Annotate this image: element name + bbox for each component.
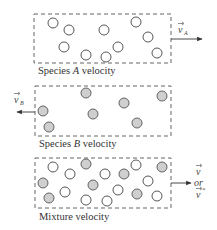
mixture-particle-a (81, 195, 91, 205)
species-b-particle (81, 88, 91, 98)
species-b-particle (132, 118, 142, 128)
mixture-particle-a (60, 187, 70, 197)
mixture-panel: v or v * Mixture velocity (35, 158, 205, 222)
species-b-particle (44, 122, 54, 132)
species-b-particle (119, 98, 129, 108)
svg-text:B: B (20, 100, 24, 106)
species-a-label: Species A velocity (38, 65, 116, 76)
species-a-particle (64, 25, 74, 35)
svg-text:*: * (202, 187, 205, 193)
species-b-particle (38, 106, 48, 116)
mixture-velocity-symbols: v or v * (194, 164, 205, 200)
mixture-particle-a (65, 169, 75, 179)
species-a-velocity-symbol: v A (178, 22, 188, 36)
diffusion-velocity-diagram: v A Species A velocity v B Species B vel… (0, 0, 217, 230)
species-a-particles (48, 17, 162, 62)
mixture-particle-b (44, 193, 54, 203)
species-b-control-volume (35, 86, 171, 136)
mixture-particle-a (143, 176, 153, 186)
mixture-particle-a (131, 160, 141, 170)
species-b-particle (88, 109, 98, 119)
mixture-particle-b (157, 162, 167, 172)
species-b-particles (38, 88, 167, 132)
species-b-velocity-symbol: v B (14, 92, 24, 106)
mixture-particle-b (88, 180, 98, 190)
species-a-particle (81, 50, 91, 60)
svg-text:v: v (196, 189, 201, 200)
mixture-particle-b (81, 159, 91, 169)
svg-text:v: v (196, 166, 201, 177)
mixture-particle-a (100, 169, 110, 179)
species-a-particle (59, 42, 69, 52)
mixture-particle-b (132, 189, 142, 199)
svg-text:v: v (14, 94, 19, 105)
svg-text:v: v (178, 24, 183, 35)
species-b-panel: v B Species B velocity (14, 86, 171, 149)
mixture-particles (38, 159, 167, 206)
mixture-label: Mixture velocity (39, 211, 110, 222)
species-b-label: Species B velocity (39, 138, 117, 149)
mixture-particle-b (119, 169, 129, 179)
mixture-particle-a (48, 162, 58, 172)
species-a-particle (48, 18, 58, 28)
mixture-particle-a (152, 191, 162, 201)
species-a-panel: v A Species A velocity (34, 14, 202, 76)
svg-text:A: A (183, 30, 188, 36)
mixture-particle-a (102, 196, 112, 206)
species-a-particle (99, 25, 109, 35)
species-a-particle (152, 48, 162, 58)
species-a-particle (143, 32, 153, 42)
species-b-particle (157, 91, 167, 101)
mixture-particle-b (38, 178, 48, 188)
species-a-particle (113, 42, 123, 52)
species-a-particle (131, 17, 141, 27)
species-a-particle (101, 52, 111, 62)
mixture-particle-a (113, 185, 123, 195)
